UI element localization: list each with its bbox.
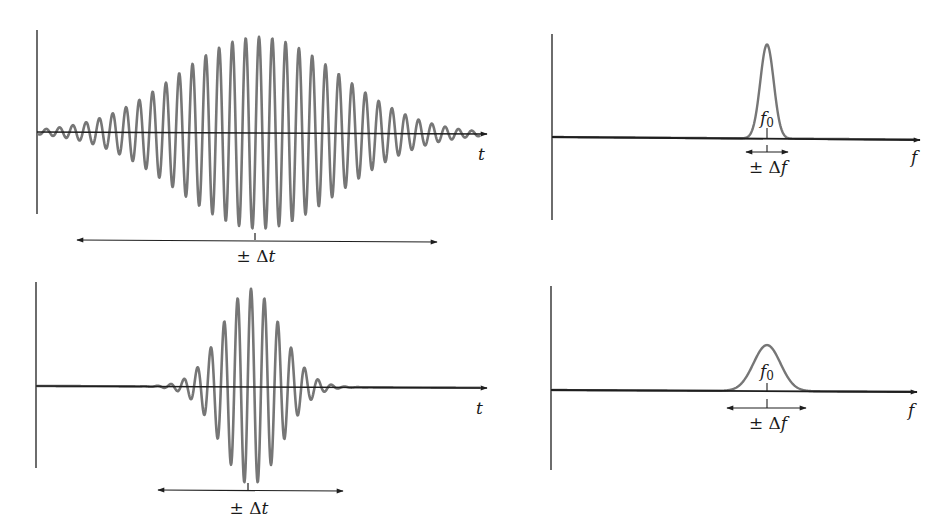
panel-short-pulse-time: t ± Δt: [36, 282, 487, 518]
f-axis-label: f: [906, 400, 917, 420]
spectrum-peak-narrow: [553, 45, 915, 140]
delta-t-range-arrow: [158, 490, 343, 491]
f-axis: [551, 390, 917, 392]
delta-t-label: ± Δt: [230, 498, 269, 518]
f-axis-label: f: [909, 147, 920, 167]
panel-narrow-spectrum: f0 ± Δf f: [552, 34, 920, 220]
delta-f-label: ± Δf: [749, 413, 790, 433]
f0-label: f0: [758, 108, 774, 130]
spectrum-peak-wide: [552, 345, 912, 392]
wave-packet-uncertainty-figure: t ± Δt f0 ± Δf f t ± Δt f0 ± Δf f: [0, 0, 950, 529]
panel-long-pulse-time: t ± Δt: [37, 30, 487, 266]
delta-t-range-arrow: [77, 240, 437, 242]
delta-f-label: ± Δf: [749, 157, 790, 177]
f0-label: f0: [758, 361, 774, 383]
t-axis-label: t: [476, 398, 483, 418]
t-axis: [37, 132, 487, 134]
delta-t-label: ± Δt: [237, 246, 276, 266]
t-axis-label: t: [478, 144, 485, 164]
panel-wide-spectrum: f0 ± Δf f: [551, 286, 917, 470]
